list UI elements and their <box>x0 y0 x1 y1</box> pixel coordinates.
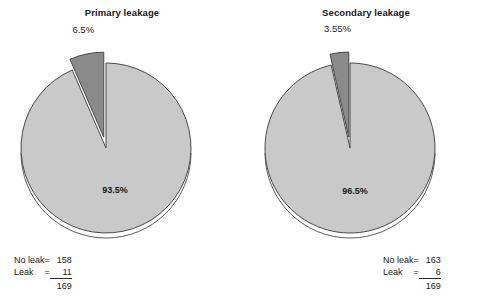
legend-total-row: 169 <box>14 280 72 292</box>
chart-title-primary: Primary leakage <box>0 7 244 18</box>
slice-percent-label-noleak-secondary: 96.5% <box>315 186 395 196</box>
chart-panel-secondary: Secondary leakage 3.55% 96.5% <box>244 0 488 302</box>
legend-equals: = <box>45 267 50 279</box>
legend-primary: No leak = 158 Leak = 11 169 <box>14 255 72 292</box>
slice-percent-label-noleak-primary: 93.5% <box>75 185 155 195</box>
legend-secondary: No leak = 163 Leak = 6 169 <box>383 255 441 292</box>
legend-equals: = <box>414 255 419 267</box>
legend-label-noleak: No leak <box>14 255 45 267</box>
legend-row: Leak = 11 <box>14 267 72 279</box>
legend-value-noleak: 163 <box>419 255 441 267</box>
chart-title-secondary: Secondary leakage <box>244 7 488 18</box>
legend-value-leak: 6 <box>419 267 441 279</box>
legend-equals: = <box>45 255 50 267</box>
legend-row: No leak = 163 <box>383 255 441 267</box>
legend-total-value: 169 <box>50 280 72 292</box>
legend-row: No leak = 158 <box>14 255 72 267</box>
pie-chart-primary: 6.5% 93.5% <box>0 20 244 242</box>
legend-value-leak: 11 <box>50 267 72 279</box>
slice-percent-label-leak-primary: 6.5% <box>43 24 123 35</box>
pie-svg-primary <box>0 20 244 242</box>
slice-percent-label-leak-secondary: 3.55% <box>298 23 378 34</box>
legend-label-leak: Leak <box>14 267 45 279</box>
legend-total-value: 169 <box>419 280 441 292</box>
chart-panel-primary: Primary leakage 6.5% 93.5% No leak = 158… <box>0 0 244 302</box>
legend-row: Leak = 6 <box>383 267 441 279</box>
legend-label-leak: Leak <box>383 267 414 279</box>
legend-equals: = <box>414 267 419 279</box>
legend-total-row: 169 <box>383 280 441 292</box>
pie-chart-secondary: 3.55% 96.5% <box>244 20 488 242</box>
legend-label-noleak: No leak <box>383 255 414 267</box>
pie-svg-secondary <box>244 20 488 242</box>
legend-value-noleak: 158 <box>50 255 72 267</box>
